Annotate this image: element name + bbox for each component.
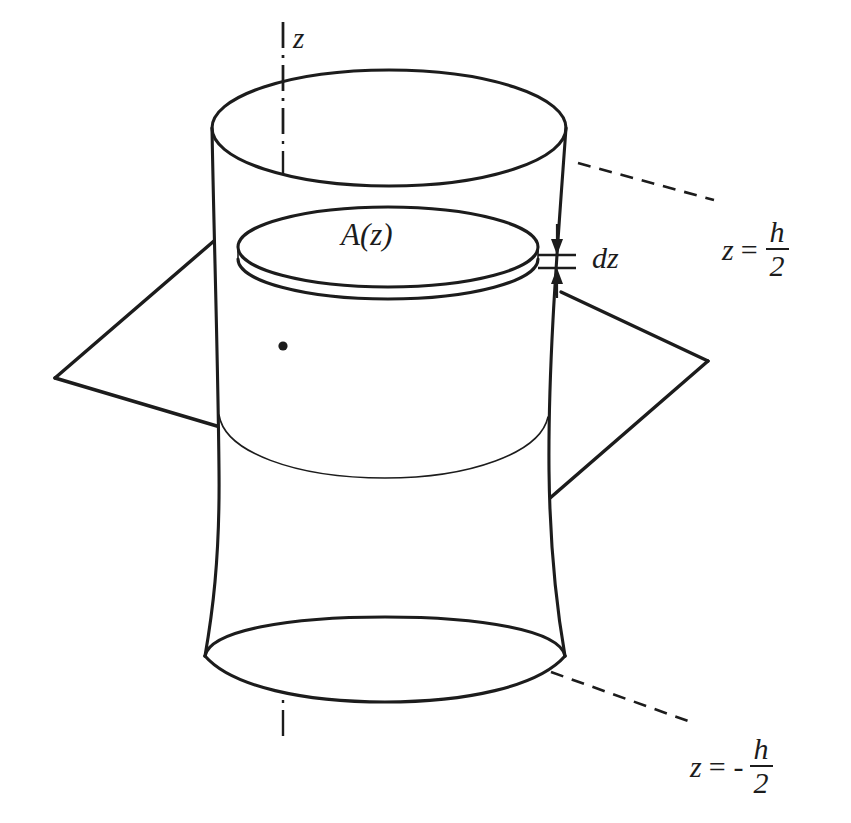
plane-edge-left-far bbox=[55, 222, 236, 378]
top-plane-equation-label: z = h 2 bbox=[722, 218, 789, 282]
bottom-plane-denominator: 2 bbox=[750, 767, 773, 798]
solid-top-rim-ellipse bbox=[212, 70, 566, 186]
leader-line-top bbox=[578, 163, 714, 200]
diagram-canvas bbox=[0, 0, 851, 823]
cross-section-area-label: A(z) bbox=[341, 219, 393, 250]
plane-edge-right-near bbox=[527, 361, 708, 518]
bottom-plane-fraction: h 2 bbox=[750, 734, 773, 798]
dz-thickness-label: dz bbox=[592, 243, 619, 273]
z-axis-label: z bbox=[293, 24, 304, 53]
top-plane-numerator: h bbox=[766, 217, 789, 248]
bottom-plane-numerator: h bbox=[750, 734, 773, 765]
top-plane-denominator: 2 bbox=[766, 250, 789, 281]
bottom-plane-z-symbol: z bbox=[690, 752, 702, 782]
top-plane-equals-sign: = bbox=[741, 235, 758, 265]
axis-origin-dot bbox=[278, 341, 287, 350]
bottom-plane-equation-label: z = - h 2 bbox=[690, 735, 773, 799]
leader-line-bottom bbox=[551, 672, 688, 721]
bottom-plane-equals-sign: = bbox=[709, 752, 726, 782]
leader-lines-group bbox=[551, 163, 714, 721]
top-plane-z-symbol: z bbox=[722, 235, 734, 265]
figure-root: z A(z) dz z = h 2 z = - h 2 bbox=[0, 0, 851, 823]
plane-edge-right-far bbox=[561, 292, 708, 361]
top-plane-fraction: h 2 bbox=[766, 217, 789, 281]
bottom-plane-minus-sign: - bbox=[734, 752, 744, 782]
